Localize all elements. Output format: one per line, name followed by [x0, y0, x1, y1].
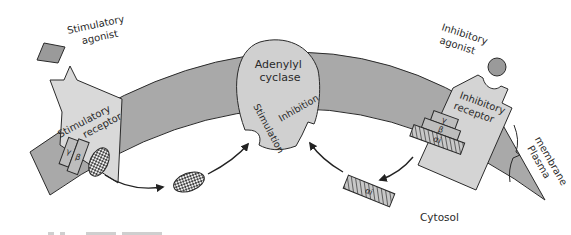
arrow-alpha-s-to-cyclase	[208, 144, 248, 174]
diagram-canvas: Stimulatory agonist Stimulatory receptor…	[0, 0, 571, 235]
stimulatory-agonist-label: Stimulatory agonist	[66, 12, 131, 48]
inhibitory-agonist-label: Inhibitory agonist	[436, 21, 492, 60]
arrow-alpha-i-to-cyclase	[310, 143, 343, 172]
adenylyl-cyclase-label: Adenylyl cyclase	[255, 58, 306, 84]
alpha-s-subunit-free	[171, 168, 207, 196]
cytosol-label: Cytosol	[420, 211, 459, 223]
inhibitory-agonist-shape	[488, 58, 506, 76]
cropped-caption	[48, 232, 162, 235]
alpha-i-subunit-free: αi	[343, 175, 395, 207]
stimulatory-agonist-shape	[37, 43, 65, 63]
arrow-alpha-i-release	[380, 157, 413, 180]
